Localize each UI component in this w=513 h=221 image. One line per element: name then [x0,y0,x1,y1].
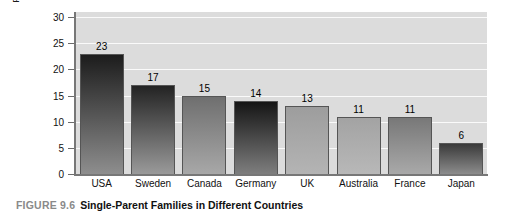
y-tick-label: 10 [42,116,64,127]
bar [388,117,432,174]
bar-item: 14 [230,12,281,174]
bar-item: 6 [436,12,487,174]
y-tick-label: 30 [42,12,64,23]
bar-series: 231715141311116 [76,12,487,174]
plot-area: 231715141311116 [76,12,487,174]
bar-item: 23 [76,12,127,174]
bar-value-label: 11 [353,104,363,115]
x-tick-label: UK [282,178,333,194]
x-tick-label: Australia [333,178,384,194]
y-tick-label: 15 [42,90,64,101]
y-tick-label: 0 [42,169,64,180]
bar [234,101,278,174]
bar-value-label: 17 [147,72,158,83]
x-tick-label: Germany [230,178,281,194]
x-axis-line [74,174,488,176]
bar-item: 11 [333,12,384,174]
x-tick-label: France [384,178,435,194]
bar-value-label: 6 [459,130,465,141]
x-tick-label: Japan [436,178,487,194]
bar-value-label: 14 [250,88,261,99]
bar [182,96,226,174]
y-tick-label: 25 [42,38,64,49]
bar-item: 17 [127,12,178,174]
bar [131,85,175,174]
bar [285,106,329,174]
bar-item: 15 [179,12,230,174]
x-tick-label: Sweden [127,178,178,194]
figure-caption: FIGURE 9.6Single-Parent Families in Diff… [16,199,303,211]
figure-container: Percent of families with children under … [0,0,513,221]
bar-value-label: 13 [302,93,313,104]
y-axis-title-line-1: Percent of families with [11,0,21,3]
x-axis-labels: USASwedenCanadaGermanyUKAustraliaFranceJ… [76,178,487,194]
bar [80,54,124,174]
bar-value-label: 15 [199,83,210,94]
x-tick-label: USA [76,178,127,194]
figure-number: FIGURE 9.6 [16,199,75,211]
y-axis-ticks: 051015202530 [40,0,74,221]
bar-value-label: 23 [96,41,107,52]
bar-value-label: 11 [405,104,415,115]
bar-item: 13 [282,12,333,174]
y-axis-title: Percent of families with children under … [6,0,36,38]
y-tick-label: 5 [42,142,64,153]
x-tick-label: Canada [179,178,230,194]
bar [439,143,483,174]
bar [337,117,381,174]
y-tick-label: 20 [42,64,64,75]
bar-item: 11 [384,12,435,174]
figure-caption-title: Single-Parent Families in Different Coun… [80,199,303,211]
